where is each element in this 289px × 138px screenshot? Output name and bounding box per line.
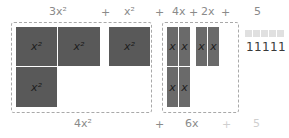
unit-one-label: 1 (262, 40, 270, 54)
bottom-plus-2: + (222, 118, 231, 131)
tile-label: x² (74, 40, 85, 53)
tile-label: x (198, 40, 205, 53)
top-plus-3: + (189, 6, 198, 19)
tile-label: x² (31, 81, 42, 94)
x-squared-tile: x² (16, 67, 57, 107)
tile-label: x (210, 40, 217, 53)
tile-label: x (181, 81, 188, 94)
tile-label: x (169, 40, 176, 53)
x-bar-tile: x (208, 27, 219, 66)
x-bar-tile: x (196, 27, 207, 66)
top-term-x2: x² (124, 5, 135, 18)
top-term-2x: 2x (201, 5, 215, 18)
tile-label: x² (124, 40, 135, 53)
tile-label: x² (31, 40, 42, 53)
top-term-4x: 4x (172, 5, 186, 18)
bottom-term-6x: 6x (185, 117, 199, 130)
x-bar-tile: x (179, 67, 190, 107)
top-term-5: 5 (254, 5, 261, 18)
x-squared-tile: x² (109, 27, 150, 66)
top-plus-1: + (101, 6, 110, 19)
x-bar-tile: x (167, 67, 178, 107)
unit-one-label: 1 (246, 40, 254, 54)
top-term-3x2: 3x² (49, 5, 67, 18)
bottom-plus-1: + (155, 118, 164, 131)
top-plus-4: + (221, 6, 230, 19)
x-bar-tile: x (167, 27, 178, 66)
x-squared-tile: x² (16, 27, 57, 66)
unit-one-label: 1 (254, 40, 262, 54)
unit-tile (253, 30, 260, 37)
top-plus-2: + (155, 6, 164, 19)
x-bar-tile: x (179, 27, 190, 66)
unit-one-label: 1 (270, 40, 278, 54)
x-squared-tile: x² (58, 27, 100, 66)
unit-one-label: 1 (278, 40, 286, 54)
tile-label: x (181, 40, 188, 53)
bottom-term-5: 5 (253, 117, 260, 130)
tile-label: x (169, 81, 176, 94)
unit-tile (277, 30, 284, 37)
bottom-term-4x2: 4x² (74, 117, 92, 130)
unit-tile (245, 30, 252, 37)
unit-tile (261, 30, 268, 37)
unit-tile (269, 30, 276, 37)
